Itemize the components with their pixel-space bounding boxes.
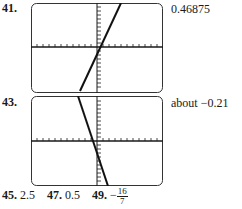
problem-47-answer: 0.5 [65,188,80,202]
problem-43-answer: about −0.21 [171,96,228,111]
graph-41-svg [31,3,163,93]
problem-41-answer: 0.46875 [171,2,210,17]
problem-45-number: 45. [2,188,17,202]
problem-49-number: 49. [92,188,107,202]
problem-41-number: 41. [2,1,17,16]
problem-49-fraction: 167 [117,187,128,206]
problem-45-answer: 2.5 [20,188,35,202]
problem-47-number: 47. [47,188,62,202]
problem-43-number: 43. [2,95,17,110]
problem-41-graph [31,3,163,93]
problem-49-sign: − [110,188,117,202]
fraction-denominator: 7 [117,197,128,206]
problem-43-graph [31,96,163,186]
answers-row: 45.2.5 47.0.5 49.−167 [2,187,128,206]
graph-43-svg [31,96,163,186]
